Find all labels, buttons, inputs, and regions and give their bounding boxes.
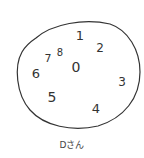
hand-drawn-clock: 12345678 0 xyxy=(0,0,144,140)
clock-number-5: 5 xyxy=(48,89,57,105)
clock-number-8: 8 xyxy=(57,47,63,58)
clock-number-7: 7 xyxy=(45,52,52,65)
clock-number-2: 2 xyxy=(96,41,104,55)
clock-number-4: 4 xyxy=(92,101,100,116)
caption: Dさん xyxy=(0,138,144,151)
clock-number-1: 1 xyxy=(76,28,84,43)
clock-number-3: 3 xyxy=(118,75,126,89)
clock-number-6: 6 xyxy=(32,66,40,81)
clock-center-label: 0 xyxy=(72,59,81,75)
